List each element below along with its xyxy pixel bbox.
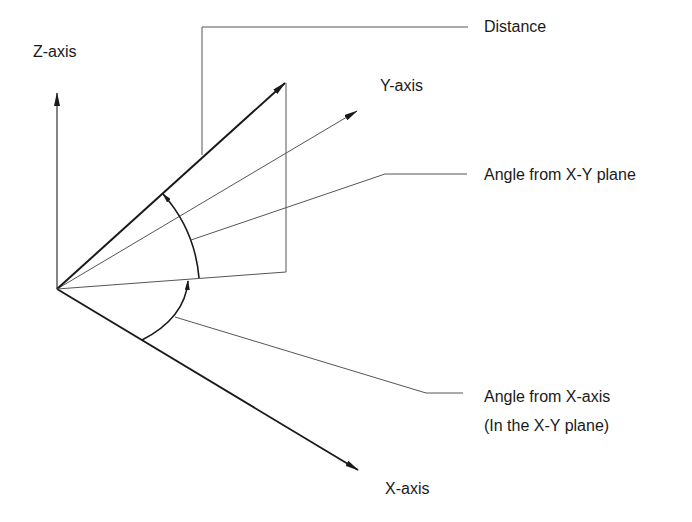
xy-projection-line [57, 272, 286, 289]
angle-xy-plane-arc [163, 194, 199, 278]
z-axis-label: Z-axis [33, 42, 77, 61]
y-axis-line [57, 111, 357, 289]
distance-vector [57, 83, 285, 289]
angle-x-axis-label-line2: (In the X-Y plane) [484, 416, 609, 435]
distance-label: Distance [484, 17, 546, 36]
x-axis-line [57, 289, 358, 470]
angle-x-axis-arc [142, 281, 188, 340]
angle-x-axis-leader-line [175, 317, 463, 393]
distance-leader-line [202, 27, 468, 155]
y-axis-label: Y-axis [380, 76, 423, 95]
angle-x-axis-label-line1: Angle from X-axis [484, 387, 610, 406]
angle-xy-plane-leader-line [191, 174, 467, 240]
coordinate-diagram [0, 0, 692, 522]
angle-xy-plane-label: Angle from X-Y plane [484, 165, 636, 184]
x-axis-label: X-axis [385, 479, 429, 498]
